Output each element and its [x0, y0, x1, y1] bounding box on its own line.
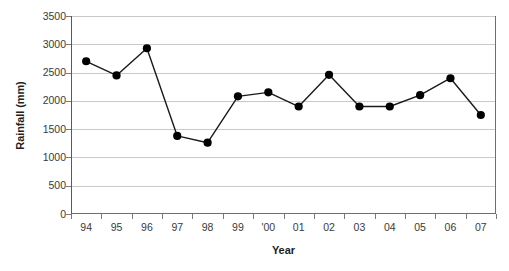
y-axis-tick-mark — [66, 16, 71, 17]
x-axis-tick-label: 98 — [191, 221, 225, 233]
y-axis-tick-label: 3000 — [26, 39, 66, 50]
gridline — [72, 101, 495, 102]
x-axis-tick-label: 04 — [373, 221, 407, 233]
x-axis-tick-mark — [253, 214, 254, 219]
x-axis-tick-mark — [162, 214, 163, 219]
gridline — [72, 129, 495, 130]
x-axis-tick-mark — [435, 214, 436, 219]
x-axis-tick-mark — [192, 214, 193, 219]
gridline — [72, 16, 495, 17]
x-axis-tick-label: 07 — [464, 221, 498, 233]
rainfall-line-chart: Rainfall (mm) 05001000150020002500300035… — [0, 0, 509, 271]
x-axis-tick-label: 05 — [403, 221, 437, 233]
x-axis-tick-label: 94 — [69, 221, 103, 233]
y-axis-tick-label: 500 — [26, 180, 66, 191]
y-axis-tick-label: 1000 — [26, 152, 66, 163]
x-axis-tick-mark — [101, 214, 102, 219]
x-axis-tick-mark — [405, 214, 406, 219]
y-axis-tick-mark — [66, 101, 71, 102]
x-axis-tick-mark — [314, 214, 315, 219]
gridline — [72, 44, 495, 45]
x-axis-tick-label: 97 — [160, 221, 194, 233]
plot-area — [71, 16, 496, 214]
x-axis-tick-mark — [284, 214, 285, 219]
gridline — [72, 157, 495, 158]
x-axis-tick-mark — [223, 214, 224, 219]
y-axis-tick-label: 1500 — [26, 124, 66, 135]
y-axis-tick-label: 2000 — [26, 95, 66, 106]
x-axis-tick-label: '00 — [251, 221, 285, 233]
y-axis-tick-label: 2500 — [26, 67, 66, 78]
y-axis-tick-labels: 0500100015002000250030003500 — [26, 0, 66, 271]
x-axis-tick-label: 95 — [100, 221, 134, 233]
x-axis-tick-mark — [71, 214, 72, 219]
y-axis-tick-mark — [66, 157, 71, 158]
x-axis-tick-mark — [132, 214, 133, 219]
gridline — [72, 186, 495, 187]
y-axis-tick-mark — [66, 186, 71, 187]
y-axis-tick-label: 0 — [26, 209, 66, 220]
x-axis-tick-label: 03 — [342, 221, 376, 233]
x-axis-tick-label: 02 — [312, 221, 346, 233]
y-axis-tick-mark — [66, 44, 71, 45]
y-axis-tick-mark — [66, 73, 71, 74]
x-axis-tick-label: 99 — [221, 221, 255, 233]
gridline — [72, 73, 495, 74]
x-axis-title: Year — [71, 244, 496, 257]
y-axis-tick-mark — [66, 129, 71, 130]
x-axis-tick-mark — [344, 214, 345, 219]
x-axis-tick-label: 96 — [130, 221, 164, 233]
y-axis-tick-label: 3500 — [26, 11, 66, 22]
x-axis-tick-label: 01 — [282, 221, 316, 233]
x-axis-tick-mark — [375, 214, 376, 219]
x-axis-tick-mark — [496, 214, 497, 219]
x-axis-tick-label: 06 — [433, 221, 467, 233]
x-axis-tick-mark — [466, 214, 467, 219]
